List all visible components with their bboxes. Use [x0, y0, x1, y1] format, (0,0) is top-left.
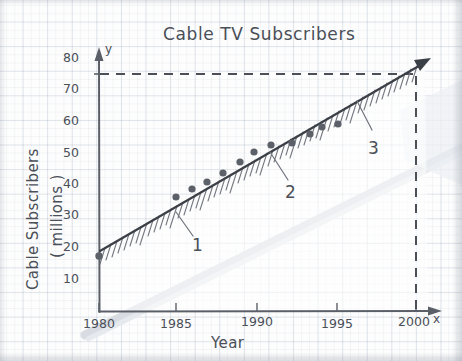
- y-tick-label-70: 70: [63, 81, 79, 96]
- data-point: [95, 252, 102, 259]
- chart-title: Cable TV Subscribers: [163, 24, 355, 44]
- y-tick-label-30: 30: [63, 207, 79, 222]
- data-point: [203, 178, 210, 185]
- y-tick-label-10: 10: [63, 271, 79, 286]
- x-tick-label-1985: 1985: [160, 316, 192, 331]
- x-tick-label-1990: 1990: [241, 314, 273, 329]
- annotation-label-1: 1: [192, 235, 203, 255]
- x-tick-label-2000: 2000: [398, 314, 430, 329]
- data-point: [219, 169, 226, 176]
- y-tick-label-50: 50: [63, 145, 79, 160]
- x-tick-label-1995: 1995: [321, 316, 353, 331]
- y-tick-label-40: 40: [63, 176, 79, 191]
- data-point: [288, 139, 295, 146]
- data-point: [250, 148, 257, 155]
- data-point: [236, 158, 243, 165]
- data-point: [172, 193, 179, 200]
- y-tick-label-60: 60: [63, 113, 79, 128]
- page-edge-shadow-left: [0, 0, 6, 361]
- y-tick-label-80: 80: [63, 50, 79, 65]
- y-axis-variable-label: y: [105, 42, 112, 56]
- data-point: [306, 130, 313, 137]
- page-edge-shadow-right: [452, 0, 462, 361]
- page-edge-shadow-top: [0, 0, 462, 5]
- graph-paper-page: Cable TV Subscribers y x Cable Subscribe…: [0, 0, 462, 361]
- y-axis-title-line1: Cable Subscribers: [24, 148, 42, 290]
- x-axis-variable-label: x: [433, 312, 440, 326]
- y-tick-label-20: 20: [63, 239, 79, 254]
- data-point: [318, 123, 325, 130]
- plot-area-wash: [99, 62, 428, 312]
- data-point: [267, 141, 274, 148]
- annotation-label-2: 2: [285, 182, 296, 202]
- page-edge-shadow-bottom: [0, 352, 462, 361]
- annotation-label-3: 3: [368, 138, 379, 158]
- cable-tv-subscribers-chart: Cable TV Subscribers y x Cable Subscribe…: [0, 0, 462, 361]
- x-axis-title: Year: [210, 334, 245, 352]
- x-tick-label-1980: 1980: [83, 316, 115, 331]
- data-point: [188, 185, 195, 192]
- data-point: [334, 120, 341, 127]
